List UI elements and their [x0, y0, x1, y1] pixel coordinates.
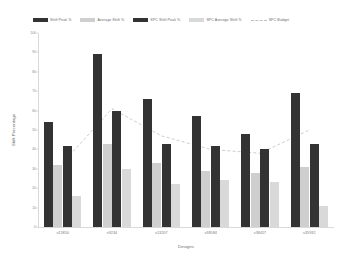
bar[interactable] — [201, 171, 210, 227]
chart-container: Shift Peak %Average Shift %SPC Shift Pea… — [0, 0, 344, 266]
bar-group — [235, 33, 284, 227]
bar[interactable] — [93, 54, 102, 227]
bar-group — [38, 33, 87, 227]
x-axis-tick-label: s15850 — [56, 231, 68, 235]
x-axis-tick-label: s13207 — [155, 231, 167, 235]
bar[interactable] — [53, 165, 62, 227]
legend-label: SPC Average Shift % — [206, 18, 241, 22]
bar[interactable] — [162, 144, 171, 227]
x-axis-tick-label: s35932 — [303, 231, 315, 235]
bar[interactable] — [122, 169, 131, 227]
bar[interactable] — [171, 184, 180, 227]
bar[interactable] — [319, 206, 328, 227]
x-axis-title: Designs — [178, 244, 194, 249]
bar[interactable] — [44, 122, 53, 227]
bar[interactable] — [300, 167, 309, 227]
y-axis-title: Shift Percentage — [11, 114, 16, 146]
x-axis-tick-label: s38584 — [204, 231, 216, 235]
bar[interactable] — [260, 149, 269, 227]
bar-group — [285, 33, 334, 227]
bar[interactable] — [63, 146, 72, 227]
bar-group — [137, 33, 186, 227]
legend-label: Average Shift % — [97, 18, 124, 22]
chart-legend: Shift Peak %Average Shift %SPC Shift Pea… — [33, 14, 333, 26]
bar-group — [87, 33, 136, 227]
bar[interactable] — [310, 144, 319, 227]
x-axis-line — [38, 227, 335, 228]
bar[interactable] — [220, 180, 229, 227]
legend-swatch-icon — [189, 18, 204, 22]
legend-item[interactable]: Average Shift % — [80, 18, 124, 22]
legend-swatch-icon — [80, 18, 95, 22]
legend-item[interactable]: SPC Average Shift % — [189, 18, 241, 22]
bar[interactable] — [103, 144, 112, 227]
x-axis-tick-label: s9234 — [107, 231, 117, 235]
legend-swatch-icon — [33, 18, 48, 22]
legend-swatch-icon — [133, 18, 148, 22]
bar[interactable] — [291, 93, 300, 227]
bar[interactable] — [241, 134, 250, 227]
bar[interactable] — [152, 163, 161, 227]
legend-label: Shift Peak % — [50, 18, 71, 22]
bar[interactable] — [211, 146, 220, 227]
legend-item[interactable]: SPC Shift Peak % — [133, 18, 180, 22]
x-axis-tick-label: s38417 — [254, 231, 266, 235]
legend-label: SPC Budget — [269, 18, 290, 22]
bar[interactable] — [270, 182, 279, 227]
legend-item[interactable]: SPC Budget — [251, 18, 290, 22]
bar[interactable] — [143, 99, 152, 227]
bar[interactable] — [192, 116, 201, 227]
legend-item[interactable]: Shift Peak % — [33, 18, 71, 22]
bar[interactable] — [251, 173, 260, 227]
plot-area: 0102030405060708090100 — [38, 33, 334, 227]
legend-label: SPC Shift Peak % — [150, 18, 180, 22]
legend-dashed-line-icon — [251, 20, 267, 21]
bar-group — [186, 33, 235, 227]
bar[interactable] — [112, 111, 121, 227]
bar[interactable] — [72, 196, 81, 227]
